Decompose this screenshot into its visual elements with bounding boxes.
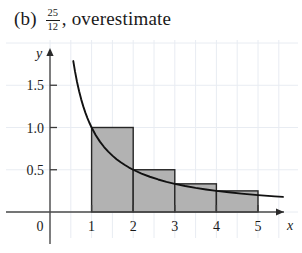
axes [6,48,284,244]
x-axis-label: x [286,218,294,233]
estimate-text: , overestimate [62,8,171,30]
x-axis-arrowhead [276,208,284,215]
x-tick-label: 4 [213,219,220,234]
x-tick-label: 1 [88,219,95,234]
y-tick-label: 1.5 [27,78,45,93]
y-axis-label: y [34,46,43,61]
origin-label: 0 [37,219,44,234]
riemann-sum-chart: 123450.51.01.50xy [0,36,302,253]
fraction-denominator: 12 [47,21,60,33]
fraction-25-over-12: 25 12 [46,8,60,32]
x-tick-label: 2 [130,219,137,234]
chart-svg: 123450.51.01.50xy [0,36,302,253]
bar [92,128,134,213]
part-label: (b) [14,8,37,30]
fraction-numerator: 25 [47,8,60,20]
y-tick-label: 0.5 [27,163,45,178]
bar [133,170,175,212]
y-axis-arrowhead [46,48,53,56]
x-tick-label: 3 [171,219,178,234]
x-tick-label: 5 [255,219,262,234]
y-tick-label: 1.0 [27,121,45,136]
figure-caption: (b) 25 12 , overestimate [14,2,171,36]
